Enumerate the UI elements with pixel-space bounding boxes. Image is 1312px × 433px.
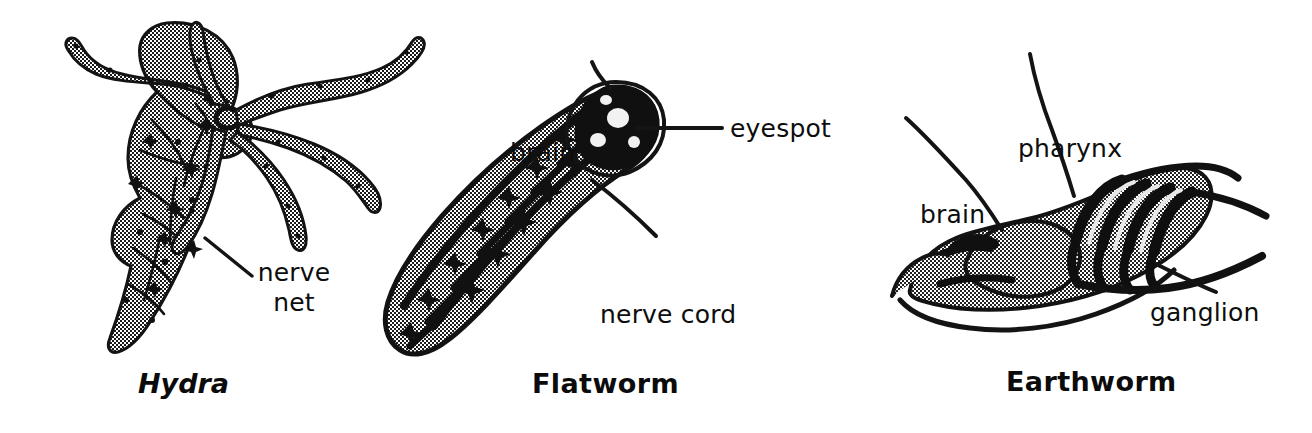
caption-flatworm: Flatworm (532, 368, 679, 399)
nerve-net-leader-line (205, 238, 252, 276)
caption-earthworm: Earthworm (1006, 366, 1177, 397)
label-ganglion: ganglion (1150, 298, 1260, 327)
label-brain-earthworm: brain (920, 200, 985, 229)
panel-earthworm: pharynx brain ganglion Earthworm (870, 0, 1312, 433)
label-nerve-net: nerve net (246, 258, 342, 318)
nerve-cord-leader-line (592, 180, 656, 236)
panel-flatworm: brain eyespot nerve cord Flatworm (330, 0, 760, 433)
label-pharynx: pharynx (1018, 134, 1122, 163)
label-brain-flatworm: brain (510, 138, 575, 167)
label-eyespot: eyespot (730, 114, 831, 143)
label-nerve-net-line2: net (273, 288, 315, 317)
caption-hydra: Hydra (138, 368, 229, 399)
pharynx-leader-line (1030, 54, 1074, 196)
invertebrate-nervous-system-figure: nerve net Hydra (0, 0, 1312, 433)
label-nerve-net-line1: nerve (258, 258, 331, 287)
label-nerve-cord: nerve cord (600, 300, 736, 329)
